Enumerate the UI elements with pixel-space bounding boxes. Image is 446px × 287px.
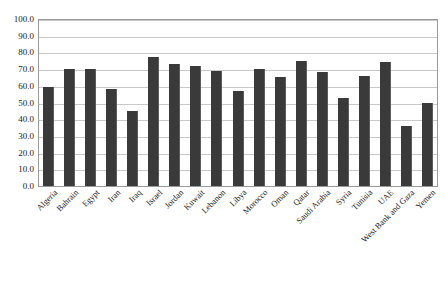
- bar: [380, 62, 391, 186]
- x-tick-label: Tunisia: [350, 188, 374, 212]
- x-tick-label: Egypt: [80, 188, 101, 209]
- bar: [211, 71, 222, 186]
- y-tick-label: 40.0: [18, 115, 34, 124]
- bar: [359, 76, 370, 186]
- x-tick-label: Iran: [106, 188, 122, 204]
- y-tick-label: 50.0: [18, 98, 34, 107]
- bar: [338, 98, 349, 187]
- x-axis-labels: AlgeriaBahrainEgyptIranIraqIsraelJordanK…: [38, 188, 438, 287]
- bar: [422, 103, 433, 187]
- bar: [190, 66, 201, 186]
- bar: [64, 69, 75, 186]
- x-tick-label: Jordan: [163, 188, 185, 210]
- y-tick-label: 60.0: [18, 81, 34, 90]
- bar-chart: 100.090.080.070.060.050.040.030.020.010.…: [0, 0, 446, 287]
- bar: [233, 91, 244, 186]
- bar: [43, 87, 54, 186]
- x-tick-label: Oman: [269, 188, 290, 209]
- y-tick-label: 90.0: [18, 31, 34, 40]
- bars-layer: [38, 19, 438, 186]
- y-tick-label: 100.0: [14, 15, 34, 24]
- y-tick-label: 30.0: [18, 131, 34, 140]
- y-tick-label: 20.0: [18, 148, 34, 157]
- bar: [85, 69, 96, 186]
- bar: [401, 126, 412, 186]
- bar: [254, 69, 265, 186]
- bar: [317, 72, 328, 186]
- y-axis: 100.090.080.070.060.050.040.030.020.010.…: [0, 19, 36, 187]
- y-tick-label: 0.0: [23, 182, 34, 191]
- bar: [148, 57, 159, 186]
- x-tick-label: Yemen: [415, 188, 438, 211]
- y-tick-label: 10.0: [18, 165, 34, 174]
- y-tick-label: 70.0: [18, 65, 34, 74]
- x-tick-label: Iraq: [127, 188, 143, 204]
- x-tick-label: Israel: [144, 188, 164, 208]
- x-tick-label: Algeria: [34, 188, 58, 212]
- bar: [275, 77, 286, 186]
- bar: [127, 111, 138, 186]
- bar: [169, 64, 180, 186]
- bar: [106, 89, 117, 186]
- bar: [296, 61, 307, 186]
- y-tick-label: 80.0: [18, 48, 34, 57]
